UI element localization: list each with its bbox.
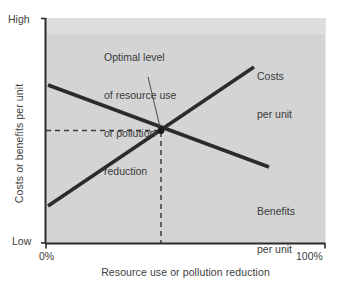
optimal-annotation-line-3: or pollution: [104, 127, 176, 140]
benefits-label-line-1: Benefits: [257, 205, 295, 218]
optimal-annotation-line-2: of resource use: [104, 89, 176, 102]
optimal-annotation-line-1: Optimal level: [104, 51, 176, 64]
x-tick-label-zero: 0%: [39, 250, 54, 262]
optimal-level-annotation: Optimal level of resource use or polluti…: [104, 26, 176, 202]
benefits-per-unit-label: Benefits per unit: [257, 180, 295, 281]
optimal-annotation-line-4: reduction: [104, 165, 176, 178]
costs-per-unit-label: Costs per unit: [257, 45, 292, 146]
x-tick-label-hundred: 100%: [296, 250, 323, 262]
plot-background-highlight: [46, 18, 326, 34]
y-tick-label-low: Low: [12, 235, 31, 247]
benefits-label-line-2: per unit: [257, 243, 295, 256]
y-tick-label-high: High: [8, 13, 30, 25]
chart-figure: Costs or benefits per unit Resource use …: [0, 0, 342, 287]
costs-label-line-2: per unit: [257, 108, 292, 121]
costs-label-line-1: Costs: [257, 70, 292, 83]
